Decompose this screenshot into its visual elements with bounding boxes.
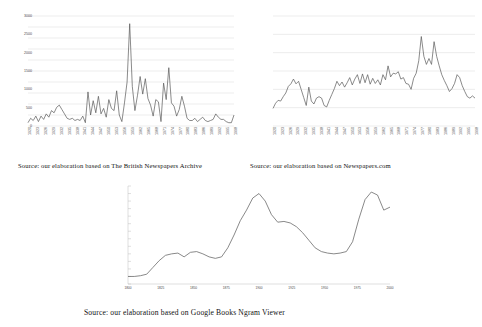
x-tick-label: 1926 bbox=[289, 127, 293, 135]
x-tick-label: 1926 bbox=[44, 127, 48, 135]
x-tick-label: 1959 bbox=[131, 127, 135, 135]
x-tick-label: 1950 bbox=[107, 127, 111, 135]
x-tick-label: 1920 bbox=[28, 127, 32, 135]
x-tick-label: 2000 bbox=[386, 286, 393, 290]
x-tick-label: 1975 bbox=[354, 286, 361, 290]
x-tick-label: 1950 bbox=[321, 286, 328, 290]
x-tick-label: 1989 bbox=[452, 127, 456, 135]
x-tick-label: 1947 bbox=[343, 127, 347, 135]
x-tick-label: 1800 bbox=[124, 286, 131, 290]
x-tick-label: 1968 bbox=[155, 127, 159, 135]
figure-container: 05101520253035404550 1920192319261929193… bbox=[0, 0, 482, 327]
chart-panel-british-newspapers-archive: 05101520253035404550 1920192319261929193… bbox=[2, 2, 240, 178]
x-tick-label: 1974 bbox=[413, 127, 417, 135]
x-tick-label: 1929 bbox=[52, 127, 56, 135]
plot-area-2: 050010001500200025003000 192019231926192… bbox=[243, 2, 481, 142]
x-tick-label: 1974 bbox=[171, 127, 175, 135]
chart-panel-google-books-ngram: 0.0000000%0.0000010%0.0000020%0.0000030%… bbox=[88, 180, 398, 326]
x-tick-label: 1998 bbox=[234, 127, 238, 135]
x-tick-label: 1953 bbox=[358, 127, 362, 135]
x-tick-label: 1925 bbox=[288, 286, 295, 290]
x-tick-label: 1920 bbox=[273, 127, 277, 135]
line-chart-2 bbox=[243, 2, 481, 142]
x-tick-label: 1986 bbox=[444, 127, 448, 135]
y-tick-label: 3000 bbox=[6, 14, 32, 18]
plot-area-3: 0.0000000%0.0000010%0.0000020%0.0000030%… bbox=[88, 180, 398, 298]
x-tick-label: 1953 bbox=[115, 127, 119, 135]
x-tick-label: 1935 bbox=[312, 127, 316, 135]
y-tick-label: 1500 bbox=[6, 69, 32, 73]
x-tick-label: 1968 bbox=[397, 127, 401, 135]
x-tick-label: 1992 bbox=[459, 127, 463, 135]
plot-area-1: 05101520253035404550 1920192319261929193… bbox=[2, 2, 240, 142]
y-tick-label: 2000 bbox=[6, 51, 32, 55]
x-tick-label: 1980 bbox=[428, 127, 432, 135]
x-tick-label: 1965 bbox=[147, 127, 151, 135]
x-tick-label: 1971 bbox=[405, 127, 409, 135]
x-tick-label: 1938 bbox=[320, 127, 324, 135]
x-tick-label: 1959 bbox=[374, 127, 378, 135]
x-tick-label: 1971 bbox=[163, 127, 167, 135]
y-tick-label: 1000 bbox=[6, 87, 32, 91]
chart-panel-newspapers-com: 050010001500200025003000 192019231926192… bbox=[243, 2, 481, 178]
x-tick-label: 1977 bbox=[179, 127, 183, 135]
x-tick-label: 1956 bbox=[123, 127, 127, 135]
caption-2: Source: our elaboration based on Newspap… bbox=[250, 162, 391, 169]
x-tick-label: 1923 bbox=[36, 127, 40, 135]
line-chart-1 bbox=[2, 2, 240, 142]
y-tick-label: 2500 bbox=[6, 32, 32, 36]
x-tick-label: 1983 bbox=[194, 127, 198, 135]
x-tick-label: 1932 bbox=[60, 127, 64, 135]
x-tick-label: 1850 bbox=[190, 286, 197, 290]
x-tick-label: 1977 bbox=[421, 127, 425, 135]
x-tick-label: 1992 bbox=[218, 127, 222, 135]
x-tick-label: 1941 bbox=[327, 127, 331, 135]
x-tick-label: 1900 bbox=[255, 286, 262, 290]
x-tick-label: 1923 bbox=[281, 127, 285, 135]
x-tick-label: 1947 bbox=[99, 127, 103, 135]
y-tick-label: 500 bbox=[6, 106, 32, 110]
x-tick-label: 1962 bbox=[382, 127, 386, 135]
x-tick-label: 1956 bbox=[366, 127, 370, 135]
x-tick-label: 1986 bbox=[202, 127, 206, 135]
x-tick-label: 1965 bbox=[390, 127, 394, 135]
x-tick-label: 1929 bbox=[296, 127, 300, 135]
x-tick-label: 1944 bbox=[91, 127, 95, 135]
x-tick-label: 1950 bbox=[351, 127, 355, 135]
x-tick-label: 1989 bbox=[210, 127, 214, 135]
x-tick-label: 1938 bbox=[76, 127, 80, 135]
x-tick-label: 1932 bbox=[304, 127, 308, 135]
x-tick-label: 1995 bbox=[467, 127, 471, 135]
x-tick-label: 1825 bbox=[157, 286, 164, 290]
x-tick-label: 1935 bbox=[68, 127, 72, 135]
x-tick-label: 1983 bbox=[436, 127, 440, 135]
x-tick-label: 1875 bbox=[223, 286, 230, 290]
x-tick-label: 1998 bbox=[475, 127, 479, 135]
caption-3: Source: our elaboration based on Google … bbox=[84, 308, 285, 317]
x-tick-label: 1944 bbox=[335, 127, 339, 135]
line-chart-3 bbox=[88, 180, 398, 298]
y-tick-label: 0 bbox=[6, 124, 32, 128]
x-tick-label: 1941 bbox=[83, 127, 87, 135]
caption-1: Source: our elaboration based on The Bri… bbox=[18, 162, 202, 169]
x-tick-label: 1995 bbox=[226, 127, 230, 135]
x-tick-label: 1980 bbox=[186, 127, 190, 135]
x-tick-label: 1962 bbox=[139, 127, 143, 135]
